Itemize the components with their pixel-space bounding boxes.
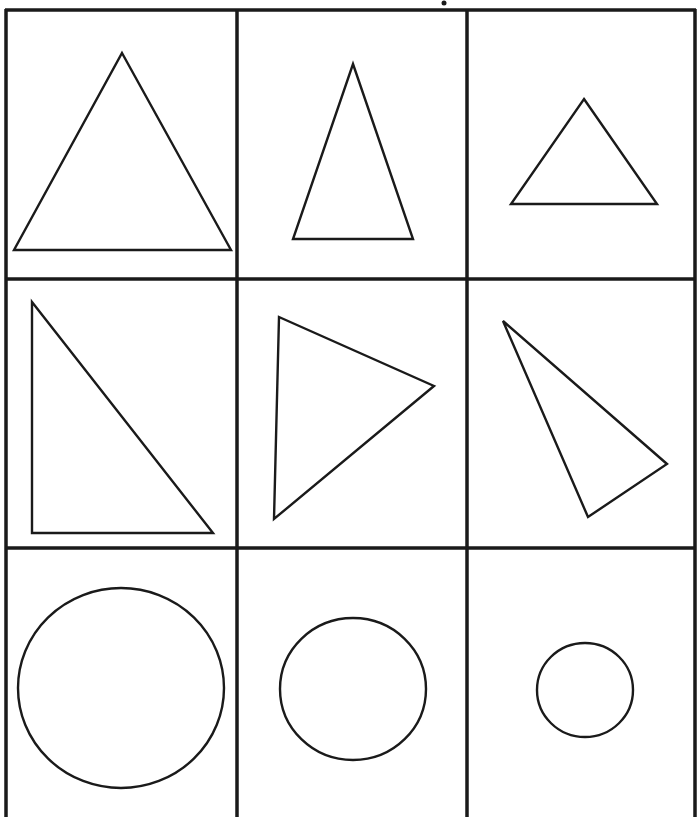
- cell-r2-c3: [503, 321, 667, 517]
- triangle-tall-isosceles: [293, 64, 413, 239]
- cell-r3-c1: [18, 588, 224, 788]
- circle-medium: [280, 618, 426, 760]
- circle-large: [18, 588, 224, 788]
- shape-worksheet: [0, 0, 700, 817]
- triangle-small-equilateral: [511, 99, 657, 204]
- cell-r2-c2: [274, 317, 434, 519]
- circle-small: [537, 643, 633, 737]
- cell-r3-c2: [280, 618, 426, 760]
- cell-r3-c3: [537, 643, 633, 737]
- cell-r1-c3: [511, 99, 657, 204]
- triangle-right: [32, 302, 213, 533]
- cell-r1-c2: [293, 64, 413, 239]
- cell-r2-c1: [32, 302, 213, 533]
- top-mark-dot: [442, 1, 447, 6]
- triangle-large-equilateral: [14, 53, 231, 250]
- triangle-pointing-right: [274, 317, 434, 519]
- triangle-rotated-scalene: [503, 321, 667, 517]
- cell-r1-c1: [14, 53, 231, 250]
